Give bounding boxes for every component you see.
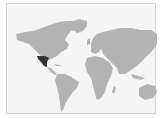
region-mexico[interactable] <box>37 56 49 67</box>
region-greenland[interactable] <box>71 19 87 33</box>
region-australia[interactable] <box>139 84 157 100</box>
region-africa[interactable] <box>85 56 113 100</box>
world-map[interactable] <box>7 4 157 115</box>
region-madagascar[interactable] <box>112 86 116 94</box>
region-southeast-asia[interactable] <box>131 74 145 80</box>
map-frame <box>6 3 156 114</box>
region-caribbean[interactable] <box>54 64 62 66</box>
region-uk[interactable] <box>87 38 90 45</box>
region-south-america[interactable] <box>55 74 79 112</box>
region-central-america[interactable] <box>47 67 57 75</box>
